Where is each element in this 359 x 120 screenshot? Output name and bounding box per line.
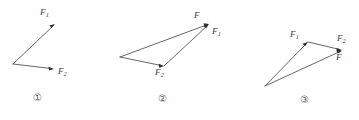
panel-1-vector-f2-arrowhead [48, 67, 54, 71]
panel-3-vector-f1-shaft [265, 44, 306, 86]
panel-3-vector-f2-shaft [308, 42, 340, 50]
panel-2-vector-f1-shaft [164, 26, 207, 66]
panel-2-number: ② [158, 94, 167, 104]
panel-1-label-f2: F2 [58, 67, 67, 76]
panel-1-vectors [13, 24, 55, 71]
panel-3-vector-f1-arrowhead [303, 42, 309, 46]
panel-3-label-f2: F2 [337, 34, 346, 43]
panel-2-vectors [120, 23, 209, 67]
panel-1-label-f1: F1 [40, 8, 49, 17]
panel-3-label-f: F [336, 53, 342, 62]
panel-3-label-f1: F1 [290, 30, 299, 39]
panel-1-vector-f1-arrowhead [49, 24, 55, 28]
panel-2-vector-f2-shaft [120, 57, 162, 66]
panel-2-label-f1: F1 [212, 27, 221, 36]
panel-1-number: ① [33, 93, 42, 103]
panel-3-vectors [265, 42, 342, 86]
force-vector-figure: F1 F2 ① F F2 F1 ② F1 F2 F ③ [0, 0, 359, 120]
panel-1-vector-f1-shaft [13, 26, 53, 64]
panel-2-label-f: F [194, 11, 200, 20]
panel-3-vector-f-shaft [265, 52, 340, 86]
panel-1-vector-f2-shaft [13, 64, 52, 69]
panel-2-vector-f-shaft [120, 25, 207, 57]
panel-2-label-f2: F2 [155, 68, 164, 77]
panel-3-number: ③ [300, 95, 309, 105]
